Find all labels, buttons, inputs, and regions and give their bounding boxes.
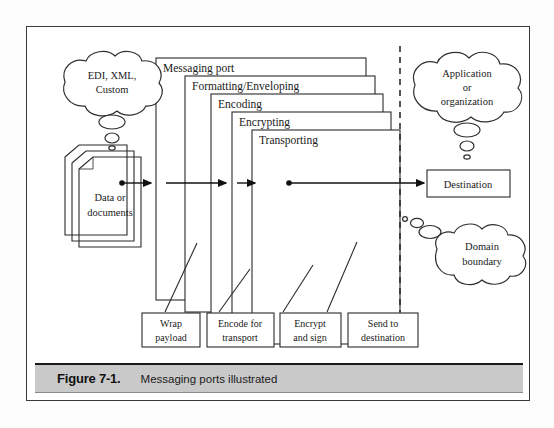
destination-box-label: Destination: [444, 179, 493, 190]
nested-layer-label-1: Formatting/Enveloping: [192, 80, 300, 93]
callout-box-send-to-destination: Send to destination: [348, 313, 418, 347]
flow-arrow-documents-to-port: [119, 180, 151, 186]
nested-layer-transporting: Transporting: [252, 130, 400, 344]
callout-2-line1: Encrypt: [294, 318, 326, 329]
callout-box-wrap-payload: Wrap payload: [142, 313, 200, 347]
callout-3-line2: destination: [361, 332, 405, 343]
figure-caption-bar: Figure 7-1. Messaging ports illustrated: [35, 363, 523, 393]
nested-layer-label-0: Messaging port: [163, 62, 235, 75]
figure-number: Figure 7-1.: [57, 371, 121, 386]
boundary-cloud-line1: Domain: [465, 241, 500, 252]
boundary-cloud: Domain boundary: [403, 217, 526, 285]
source-documents-line1: Data or: [94, 192, 126, 203]
boundary-cloud-line2: boundary: [462, 256, 502, 267]
callout-3-line1: Send to: [368, 318, 398, 329]
figure-page: Messaging port Formatting/Enveloping Enc…: [0, 0, 554, 428]
figure-frame: Messaging port Formatting/Enveloping Enc…: [26, 26, 530, 401]
source-cloud-line2: Custom: [96, 84, 129, 95]
callout-1-line2: transport: [222, 332, 258, 343]
callout-2-line2: and sign: [293, 332, 327, 343]
nested-layer-label-3: Encrypting: [239, 116, 290, 129]
destination-cloud-line2: or: [463, 82, 472, 93]
callout-box-encrypt-and-sign: Encrypt and sign: [280, 313, 341, 347]
callout-0-line2: payload: [155, 332, 187, 343]
callout-box-encode-for-transport: Encode for transport: [207, 313, 274, 347]
source-cloud-line1: EDI, XML,: [88, 70, 137, 81]
callout-1-line1: Encode for: [218, 318, 263, 329]
source-documents-line2: documents: [87, 207, 133, 218]
destination-cloud: Application or organization: [414, 52, 522, 159]
nested-layer-label-4: Transporting: [259, 134, 318, 147]
callout-0-line1: Wrap: [160, 318, 182, 329]
source-documents: Data or documents: [65, 145, 141, 247]
destination-box: Destination: [427, 170, 510, 197]
destination-cloud-line3: organization: [441, 96, 494, 107]
destination-cloud-line1: Application: [442, 68, 492, 79]
messaging-ports-diagram: Messaging port Formatting/Enveloping Enc…: [27, 27, 531, 357]
figure-caption-text: Messaging ports illustrated: [141, 373, 278, 385]
nested-layer-label-2: Encoding: [218, 98, 262, 111]
source-cloud: EDI, XML, Custom: [64, 51, 162, 150]
